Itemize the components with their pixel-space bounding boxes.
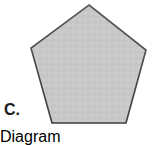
pentagon-polygon [31, 5, 146, 123]
figure-canvas: C. [0, 0, 157, 128]
figure-label-c: C. [4, 101, 20, 118]
pentagon-shape-layer [0, 0, 157, 128]
